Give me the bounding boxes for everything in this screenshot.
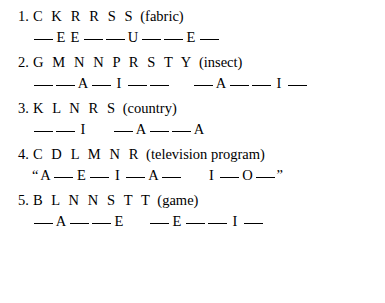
answer-letter: A xyxy=(56,211,67,231)
answer-word-group: EEUE xyxy=(32,26,220,47)
item-number: 4. xyxy=(18,146,29,163)
puzzle-worksheet: 1.C K R R S S(fabric)EEUE2.G M N N P R S… xyxy=(0,0,385,303)
answer-blank[interactable] xyxy=(172,118,191,132)
answer-letter: A xyxy=(216,73,227,93)
close-quote: ” xyxy=(276,165,282,185)
answer-word-group: AI xyxy=(192,72,308,93)
consonant-string: G M N N P R S T Y xyxy=(33,54,194,70)
answer-blank[interactable] xyxy=(220,164,239,178)
answer-blank[interactable] xyxy=(92,210,111,224)
consonant-string: B L N N S T T xyxy=(33,192,152,208)
answer-blank[interactable] xyxy=(56,72,75,86)
answer-blank[interactable] xyxy=(244,210,263,224)
answer-blank[interactable] xyxy=(34,118,53,132)
answer-word-group: AA xyxy=(112,118,206,139)
item-number: 1. xyxy=(18,8,29,25)
answer-word-group: AI xyxy=(32,72,170,93)
answer-blank[interactable] xyxy=(164,26,183,40)
category-hint: (fabric) xyxy=(140,8,183,24)
answer-blank[interactable] xyxy=(126,164,145,178)
answer-blank[interactable] xyxy=(200,26,219,40)
clue-line: 1.C K R R S S(fabric) xyxy=(18,8,385,25)
answer-line[interactable]: EEUE xyxy=(18,26,385,47)
answer-letter: E xyxy=(70,27,81,47)
answer-blank[interactable] xyxy=(194,72,213,86)
answer-blank[interactable] xyxy=(106,26,125,40)
answer-blank[interactable] xyxy=(252,72,271,86)
answer-word-group: AEIA xyxy=(38,164,182,185)
clue-line: 3.K L N R S(country) xyxy=(18,100,385,117)
answer-blank[interactable] xyxy=(70,210,89,224)
answer-letter: E xyxy=(76,165,87,185)
answer-letter: E xyxy=(56,27,67,47)
category-hint: (country) xyxy=(123,100,177,116)
answer-letter: U xyxy=(128,27,139,47)
clue-line: 5.B L N N S T T(game) xyxy=(18,192,385,209)
answer-blank[interactable] xyxy=(56,118,75,132)
answer-word-group: EI xyxy=(148,210,264,231)
puzzle-item-list: 1.C K R R S S(fabric)EEUE2.G M N N P R S… xyxy=(0,8,385,238)
answer-letter: A xyxy=(78,73,89,93)
answer-letter: O xyxy=(242,165,253,185)
answer-line[interactable]: AEEI xyxy=(18,210,385,231)
answer-blank[interactable] xyxy=(162,164,181,178)
answer-blank[interactable] xyxy=(288,72,307,86)
answer-blank[interactable] xyxy=(34,210,53,224)
puzzle-item: 4.C D L M N R(television program)“AEIAIO… xyxy=(0,146,385,185)
consonant-string: C K R R S S xyxy=(33,8,135,24)
answer-blank[interactable] xyxy=(186,210,205,224)
puzzle-item: 3.K L N R S(country)IAA xyxy=(0,100,385,139)
category-hint: (game) xyxy=(157,192,198,208)
answer-letter: A xyxy=(148,165,159,185)
answer-blank[interactable] xyxy=(142,26,161,40)
answer-blank[interactable] xyxy=(256,164,275,178)
answer-blank[interactable] xyxy=(84,26,103,40)
category-hint: (television program) xyxy=(146,146,265,162)
answer-letter: I xyxy=(114,73,125,93)
answer-letter: I xyxy=(274,73,285,93)
clue-line: 4.C D L M N R(television program) xyxy=(18,146,385,163)
answer-letter: A xyxy=(40,165,51,185)
answer-blank[interactable] xyxy=(34,26,53,40)
answer-letter: E xyxy=(114,211,125,231)
answer-line[interactable]: AIAI xyxy=(18,72,385,93)
answer-letter: A xyxy=(136,119,147,139)
answer-letter: I xyxy=(206,165,217,185)
clue-line: 2.G M N N P R S T Y(insect) xyxy=(18,54,385,71)
item-number: 3. xyxy=(18,100,29,117)
answer-letter: E xyxy=(172,211,183,231)
consonant-string: C D L M N R xyxy=(33,146,141,162)
answer-blank[interactable] xyxy=(34,72,53,86)
answer-blank[interactable] xyxy=(150,118,169,132)
answer-blank[interactable] xyxy=(150,72,169,86)
answer-blank[interactable] xyxy=(230,72,249,86)
answer-blank[interactable] xyxy=(128,72,147,86)
answer-blank[interactable] xyxy=(208,210,227,224)
answer-line[interactable]: “AEIAIO” xyxy=(18,164,385,185)
item-number: 2. xyxy=(18,54,29,71)
answer-letter: A xyxy=(194,119,205,139)
answer-blank[interactable] xyxy=(54,164,73,178)
puzzle-item: 5.B L N N S T T(game)AEEI xyxy=(0,192,385,231)
answer-line[interactable]: IAA xyxy=(18,118,385,139)
answer-blank[interactable] xyxy=(150,210,169,224)
answer-blank[interactable] xyxy=(90,164,109,178)
answer-letter: I xyxy=(78,119,89,139)
answer-blank[interactable] xyxy=(114,118,133,132)
answer-word-group: I xyxy=(32,118,90,139)
answer-blank[interactable] xyxy=(92,72,111,86)
answer-letter: E xyxy=(186,27,197,47)
puzzle-item: 2.G M N N P R S T Y(insect)AIAI xyxy=(0,54,385,93)
consonant-string: K L N R S xyxy=(33,100,118,116)
category-hint: (insect) xyxy=(199,54,242,70)
puzzle-item: 1.C K R R S S(fabric)EEUE xyxy=(0,8,385,47)
item-number: 5. xyxy=(18,192,29,209)
answer-word-group: IO xyxy=(204,164,276,185)
answer-letter: I xyxy=(230,211,241,231)
answer-word-group: AE xyxy=(32,210,126,231)
answer-letter: I xyxy=(112,165,123,185)
